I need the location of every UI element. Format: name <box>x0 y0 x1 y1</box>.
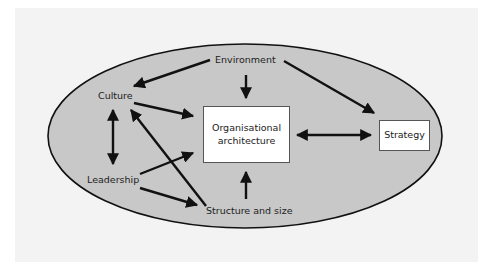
architecture-label-line2: architecture <box>212 135 281 147</box>
node-structure-and-size: Structure and size <box>206 206 293 216</box>
architecture-label-line1: Organisational <box>212 122 281 134</box>
node-culture: Culture <box>98 91 133 101</box>
node-organisational-architecture: Organisational architecture <box>203 106 290 163</box>
strategy-label: Strategy <box>384 129 425 141</box>
node-leadership: Leadership <box>87 175 139 185</box>
node-environment: Environment <box>215 55 276 65</box>
node-strategy: Strategy <box>379 120 430 151</box>
